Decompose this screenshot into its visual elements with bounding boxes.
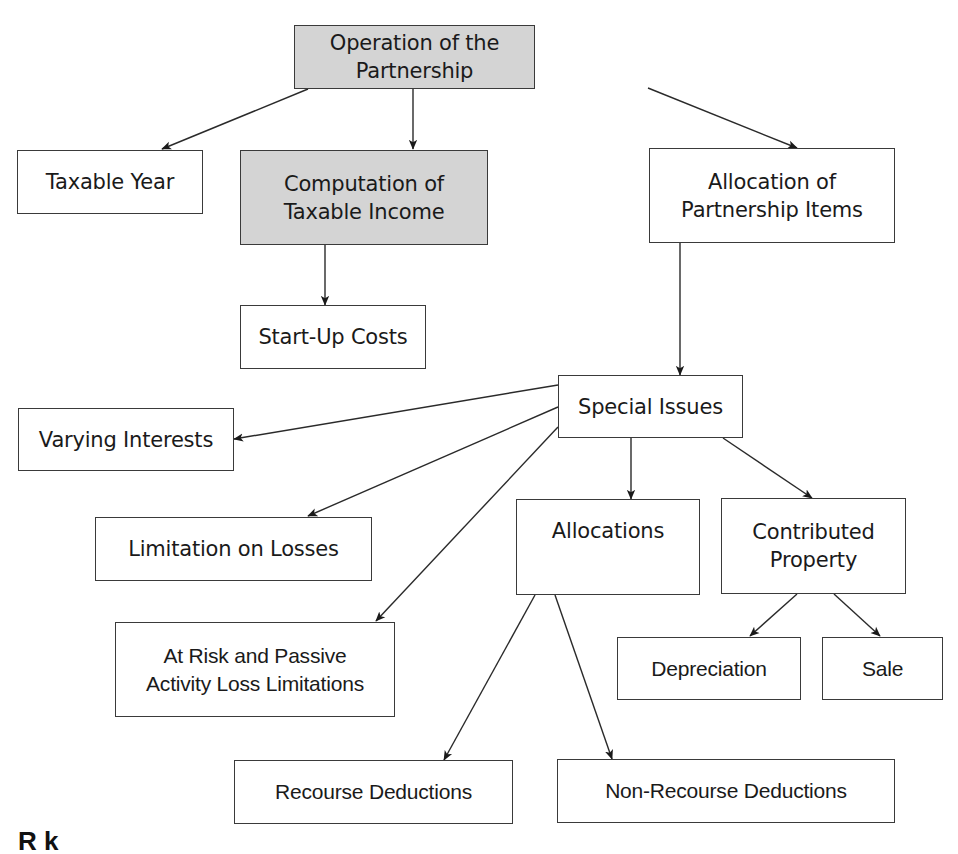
node-contributed-property: Contributed Property (721, 498, 906, 594)
node-limitation-on-losses: Limitation on Losses (95, 517, 372, 581)
node-non-recourse-deductions: Non-Recourse Deductions (557, 759, 895, 823)
node-label: Non-Recourse Deductions (605, 777, 847, 805)
node-sale: Sale (822, 637, 943, 700)
node-taxable-year: Taxable Year (17, 150, 203, 214)
node-label: Limitation on Losses (128, 535, 339, 563)
node-label: Allocation of Partnership Items (681, 168, 863, 224)
node-start-up-costs: Start-Up Costs (240, 305, 426, 369)
node-recourse-deductions: Recourse Deductions (234, 760, 513, 824)
node-label: Operation of the Partnership (295, 29, 534, 85)
node-label: Contributed Property (752, 518, 874, 574)
node-varying-interests: Varying Interests (18, 408, 234, 471)
node-allocations: Allocations (516, 499, 700, 595)
node-allocation-of-partnership-items: Allocation of Partnership Items (649, 148, 895, 243)
node-label: Varying Interests (39, 426, 213, 454)
node-depreciation: Depreciation (617, 637, 801, 700)
node-label: Start-Up Costs (258, 323, 407, 351)
node-at-risk-passive-activity: At Risk and Passive Activity Loss Limita… (115, 622, 395, 717)
node-label: Taxable Year (46, 168, 174, 196)
cut-off-heading-fragment: R k (18, 826, 58, 854)
node-label: Allocations (552, 517, 664, 545)
node-label: Sale (862, 655, 903, 683)
node-special-issues: Special Issues (558, 375, 743, 438)
node-label: Recourse Deductions (275, 778, 472, 806)
node-label: Depreciation (651, 655, 767, 683)
node-operation-of-partnership: Operation of the Partnership (294, 25, 535, 89)
node-label: Special Issues (578, 393, 723, 421)
node-computation-of-taxable-income: Computation of Taxable Income (240, 150, 488, 245)
node-label: Computation of Taxable Income (284, 170, 445, 226)
node-label: At Risk and Passive Activity Loss Limita… (146, 642, 364, 698)
